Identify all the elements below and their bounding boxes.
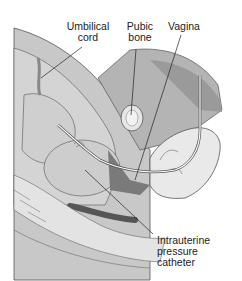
label-line: bone xyxy=(124,32,156,43)
umbilical-cord xyxy=(38,58,40,95)
label-umbilical-cord: Umbilical cord xyxy=(62,21,114,43)
label-pubic-bone: Pubic bone xyxy=(124,21,156,43)
label-vagina: Vagina xyxy=(166,21,202,32)
label-line: cord xyxy=(62,32,114,43)
label-catheter: Intrauterine pressure catheter xyxy=(157,235,227,268)
fetus-head xyxy=(44,140,120,196)
label-line: catheter xyxy=(157,257,227,268)
